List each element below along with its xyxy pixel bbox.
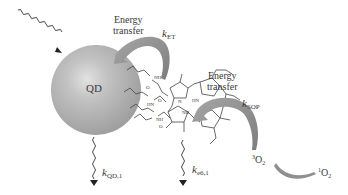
atom-label: O bbox=[159, 124, 163, 129]
qd-label: QD bbox=[86, 83, 102, 94]
o2-sub: 2 bbox=[262, 160, 265, 166]
k-subscript: SOP bbox=[247, 103, 260, 111]
k-subscript: ET bbox=[167, 33, 176, 41]
atom-label: O bbox=[146, 85, 150, 90]
atom-label: HN bbox=[147, 102, 154, 107]
energy-transfer-label-1: Energy transfer bbox=[113, 14, 144, 36]
rate-k-et: kET bbox=[162, 28, 175, 41]
energy-transfer-label-2: Energy transfer bbox=[207, 70, 238, 92]
qd-decay-arrow bbox=[90, 137, 98, 186]
atom-label: NH bbox=[156, 117, 163, 122]
et2-line2: transfer bbox=[207, 81, 238, 92]
oxygen-conversion-arrow bbox=[274, 163, 316, 179]
o2-sub: 2 bbox=[328, 173, 331, 179]
et2-line1: Energy bbox=[207, 70, 238, 81]
rate-k-sop: kSOP bbox=[242, 98, 260, 111]
atom-label: NH bbox=[154, 75, 161, 80]
rate-k-ps-decay: ke6,1 bbox=[192, 164, 209, 177]
incoming-light-arrow bbox=[18, 9, 62, 53]
rate-k-qd-decay: kQD,1 bbox=[102, 167, 122, 180]
atom-label: N bbox=[178, 99, 182, 104]
photosensitizer-decay-arrow bbox=[179, 140, 187, 186]
atom-label: O bbox=[158, 98, 162, 103]
atom-label: HN bbox=[192, 98, 199, 103]
triplet-oxygen-label: 3O2 bbox=[252, 154, 265, 166]
singlet-oxygen-label: 1O2 bbox=[318, 167, 331, 179]
atom-label: NH bbox=[182, 110, 189, 115]
et1-line2: transfer bbox=[113, 25, 144, 36]
k-subscript: QD,1 bbox=[107, 172, 122, 180]
k-subscript: e6,1 bbox=[197, 169, 209, 177]
et1-line1: Energy bbox=[113, 14, 144, 25]
diagram-canvas: NH O HN O NH O N HN NH QD Energy transfe… bbox=[0, 0, 348, 195]
